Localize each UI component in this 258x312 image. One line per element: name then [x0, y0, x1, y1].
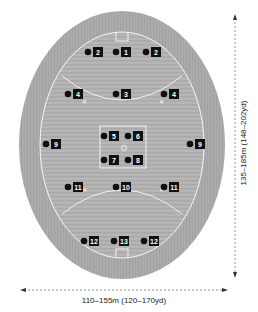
arrow-right-icon — [222, 288, 228, 292]
player-dot-icon — [43, 141, 50, 148]
player-dot-icon — [187, 141, 194, 148]
player-number: 7 — [112, 157, 116, 164]
player-number: 8 — [136, 157, 140, 164]
arc-tick-icon: ✕ — [82, 99, 87, 105]
player-dot-icon — [125, 157, 132, 164]
player-dot-icon — [141, 238, 148, 245]
arrow-up-icon — [233, 14, 237, 20]
player-dot-icon — [85, 49, 92, 56]
player-number: 2 — [154, 49, 158, 56]
player-number: 3 — [124, 91, 128, 98]
player-number: 9 — [198, 141, 202, 148]
player-dot-icon — [101, 133, 108, 140]
width-dimension: 110–155m (120–170yd) — [20, 288, 228, 305]
player-number: 12 — [150, 238, 158, 245]
playing-field — [40, 32, 204, 258]
player-dot-icon — [125, 133, 132, 140]
field-diagram: ✕ ✕ ✕ ✕ 212434569978111011121312 110–155… — [0, 0, 258, 312]
player-dot-icon — [143, 49, 150, 56]
player-number: 1 — [124, 49, 128, 56]
player-number: 9 — [54, 141, 58, 148]
player-dot-icon — [81, 238, 88, 245]
player-dot-icon — [113, 91, 120, 98]
player-number: 13 — [120, 238, 128, 245]
player-dot-icon — [113, 184, 120, 191]
player-number: 6 — [136, 133, 140, 140]
width-label: 110–155m (120–170yd) — [82, 296, 167, 305]
arrow-left-icon — [20, 288, 26, 292]
player-number: 2 — [96, 49, 100, 56]
player-dot-icon — [161, 91, 168, 98]
player-number: 11 — [74, 184, 82, 191]
arrow-down-icon — [233, 272, 237, 278]
player-number: 11 — [170, 184, 178, 191]
player-number: 5 — [112, 133, 116, 140]
length-dimension: 135–185m (148–202yd) — [233, 14, 248, 278]
player-dot-icon — [161, 184, 168, 191]
length-label: 135–185m (148–202yd) — [239, 100, 248, 185]
arc-tick-icon: ✕ — [159, 99, 164, 105]
player-dot-icon — [101, 157, 108, 164]
player-number: 4 — [172, 91, 176, 98]
player-dot-icon — [65, 184, 72, 191]
player-number: 12 — [90, 238, 98, 245]
player-number: 4 — [76, 91, 80, 98]
player-dot-icon — [113, 49, 120, 56]
player-number: 10 — [122, 184, 130, 191]
player-dot-icon — [111, 238, 118, 245]
player-dot-icon — [65, 91, 72, 98]
